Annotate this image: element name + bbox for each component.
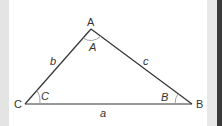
side-label-b: b	[50, 55, 56, 67]
triangle-diagram: A B C a b c A B C	[0, 0, 222, 126]
side-b	[25, 29, 91, 104]
side-label-c: c	[143, 55, 149, 67]
angle-label-b: B	[161, 91, 168, 103]
vertex-label-c: C	[14, 98, 22, 110]
angle-arc-b	[175, 94, 178, 104]
side-label-a: a	[100, 107, 106, 119]
vertex-label-a: A	[87, 16, 95, 28]
angle-arc-a	[83, 36, 101, 41]
angle-arc-c	[37, 90, 40, 104]
angle-label-c: C	[41, 90, 49, 102]
vertex-label-b: B	[196, 98, 203, 110]
side-c	[91, 29, 192, 104]
angle-label-a: A	[88, 41, 96, 53]
